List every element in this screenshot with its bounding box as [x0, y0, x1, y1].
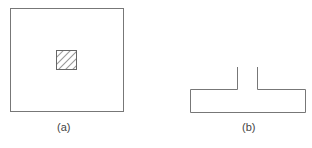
figure-canvas [0, 0, 312, 148]
hatched-square [57, 51, 77, 70]
panel-b [191, 67, 306, 113]
panel-a-label: (a) [57, 121, 70, 133]
panel-b-label: (b) [242, 121, 255, 133]
panel-a [11, 9, 124, 112]
t-shape-outline [191, 67, 306, 113]
